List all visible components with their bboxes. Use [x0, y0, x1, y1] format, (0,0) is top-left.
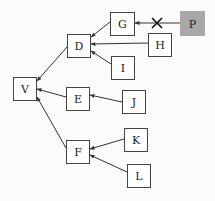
node-e: E	[67, 88, 90, 111]
node-label: J	[131, 96, 136, 109]
node-label: L	[135, 170, 143, 183]
node-label: H	[155, 39, 165, 52]
node-h: H	[149, 34, 172, 57]
node-label: E	[74, 93, 82, 106]
edge-h-to-d	[91, 43, 148, 44]
node-i: I	[112, 57, 135, 80]
edge-arrow-line	[91, 43, 148, 44]
edge-arrow-line	[90, 139, 124, 149]
edge-arrow-line	[91, 51, 111, 64]
node-label: V	[20, 83, 30, 96]
node-k: K	[125, 129, 148, 152]
node-label: D	[75, 40, 84, 53]
node-j: J	[123, 91, 146, 114]
edge-p-to-g	[135, 18, 180, 28]
node-l: L	[128, 165, 151, 188]
edge-arrow-line	[90, 155, 127, 172]
edge-arrow-line	[91, 22, 110, 37]
edge-arrow-line	[37, 47, 67, 81]
node-f: F	[67, 141, 90, 164]
edge-arrow-line	[37, 97, 66, 148]
node-d: D	[68, 35, 91, 58]
node-label: I	[121, 62, 125, 75]
edge-k-to-f	[90, 139, 124, 149]
tree-diagram: VDEFGHIJKLP	[0, 0, 215, 201]
node-label: G	[118, 18, 127, 31]
node-v: V	[14, 78, 37, 101]
edge-e-to-v	[37, 89, 66, 97]
edge-i-to-d	[91, 51, 111, 64]
edge-l-to-f	[90, 155, 127, 172]
node-p: P	[181, 12, 205, 36]
diagram-svg: VDEFGHIJKLP	[0, 0, 215, 201]
edge-arrow-line	[37, 89, 66, 97]
node-label: P	[189, 18, 197, 31]
edge-d-to-v	[37, 47, 67, 81]
edge-arrow-line	[90, 95, 122, 102]
node-label: F	[74, 146, 82, 159]
edge-j-to-e	[90, 95, 122, 102]
edge-f-to-v	[37, 97, 66, 148]
node-g: G	[111, 13, 135, 36]
node-label: K	[132, 134, 141, 147]
edge-g-to-d	[91, 22, 110, 37]
